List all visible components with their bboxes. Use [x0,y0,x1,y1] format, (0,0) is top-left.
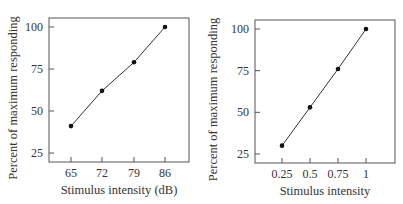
x-tick-label: 65 [65,166,77,180]
chart-linear-svg: 2550751000.250.50.751Stimulus intensityP… [200,0,403,204]
x-tick-label: 1 [363,167,369,181]
x-axis-label: Stimulus intensity (dB) [61,183,178,197]
data-line [282,29,366,146]
x-tick-label: 0.5 [303,167,318,181]
x-tick-label: 72 [96,166,108,180]
y-axis-label: Percent of maximum responding [6,16,20,180]
y-axis-label: Percent of maximum responding [206,17,220,181]
y-tick-label: 100 [231,22,249,36]
y-tick-label: 25 [237,147,249,161]
x-tick-label: 0.75 [328,167,349,181]
x-tick-label: 0.25 [272,167,293,181]
data-point [336,67,341,72]
data-point [69,124,74,129]
y-tick-label: 50 [31,104,43,118]
plot-frame [255,20,395,163]
x-tick-label: 79 [128,166,140,180]
data-point [163,25,168,30]
data-point [308,105,313,110]
chart-dB-svg: 25507510065727986Stimulus intensity (dB)… [0,0,200,204]
x-axis-label: Stimulus intensity [280,184,371,198]
plot-frame [49,18,189,162]
chart-linear: 2550751000.250.50.751Stimulus intensityP… [200,0,403,204]
y-tick-label: 25 [31,146,43,160]
y-tick-label: 50 [237,105,249,119]
y-tick-label: 75 [237,64,249,78]
data-line [71,27,165,126]
y-tick-label: 75 [31,62,43,76]
chart-dB: 25507510065727986Stimulus intensity (dB)… [0,0,200,204]
data-point [132,60,137,65]
data-point [364,27,369,32]
y-tick-label: 100 [25,20,43,34]
data-point [280,143,285,148]
data-point [100,89,105,94]
x-tick-label: 86 [159,166,171,180]
